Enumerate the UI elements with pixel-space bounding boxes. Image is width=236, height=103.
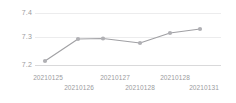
y-tick-label-7-2: 7.2 (2, 61, 32, 69)
x-tick-label-3: 20210127 (100, 74, 130, 82)
data-point-marker (198, 27, 202, 31)
x-tick-label-4: 20210128 (125, 84, 155, 92)
y-tick-label-7-4: 7.4 (2, 9, 32, 17)
y-axis: 7.4 7.3 7.2 (0, 13, 32, 70)
x-tick-label-6: 20210131 (189, 84, 219, 92)
series-line-group (35, 13, 221, 70)
data-point-marker (43, 59, 47, 63)
plot-area (35, 13, 221, 70)
data-point-marker (76, 37, 80, 41)
data-point-marker (101, 36, 105, 40)
x-tick-label-2: 20210126 (64, 84, 94, 92)
series-1-line (45, 29, 200, 61)
x-axis: 20210125 20210126 20210127 20210128 2021… (0, 70, 236, 103)
line-chart-widget: 7.4 7.3 7.2 20210125 20210126 20210127 2… (0, 0, 236, 103)
y-tick-label-7-3: 7.3 (2, 33, 32, 41)
x-tick-label-1: 20210125 (33, 74, 63, 82)
data-point-marker (168, 31, 172, 35)
x-tick-label-5: 20210128 (160, 74, 190, 82)
data-point-marker (138, 41, 142, 45)
